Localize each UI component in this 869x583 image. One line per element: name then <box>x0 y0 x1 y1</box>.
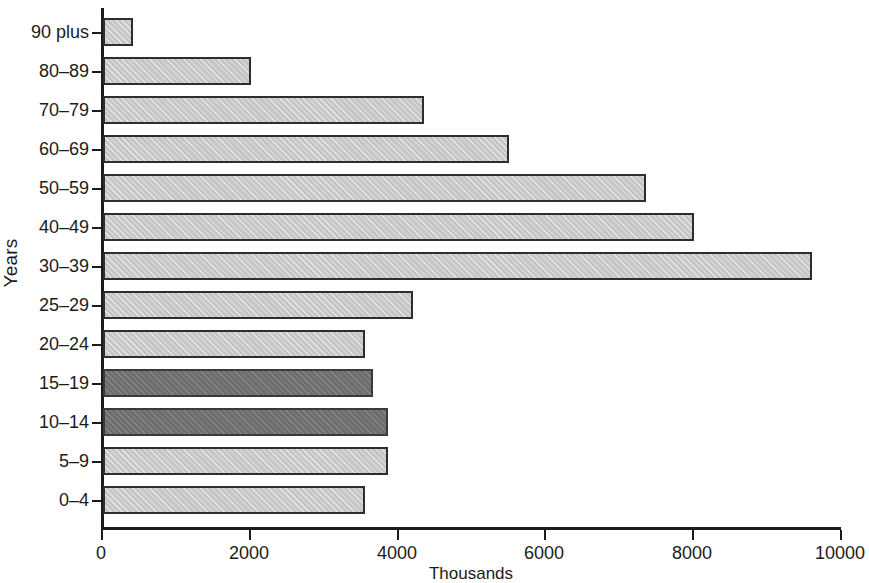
y-axis-tick <box>92 149 101 151</box>
x-axis-tick-label: 6000 <box>484 543 604 564</box>
y-axis-tick-label: 30–39 <box>0 257 89 275</box>
bar <box>103 291 413 319</box>
bar <box>103 252 812 280</box>
y-axis-tick-label: 20–24 <box>0 335 89 353</box>
y-axis-tick <box>92 383 101 385</box>
bar <box>103 447 388 475</box>
y-axis-tick-label: 90 plus <box>0 23 89 41</box>
y-axis-tick <box>92 188 101 190</box>
y-axis-tick-label: 15–19 <box>0 374 89 392</box>
y-axis-tick <box>92 500 101 502</box>
y-axis-tick <box>92 266 101 268</box>
x-axis-tick <box>544 530 546 540</box>
x-axis-tick <box>840 530 842 540</box>
y-axis-tick-label: 40–49 <box>0 218 89 236</box>
bar <box>103 96 424 124</box>
y-axis-tick <box>92 461 101 463</box>
plot-area: 90 plus80–8970–7960–6950–5940–4930–3925–… <box>101 8 841 528</box>
x-axis-tick <box>692 530 694 540</box>
x-axis-tick <box>397 530 399 540</box>
bar <box>103 57 251 85</box>
x-axis-tick-label: 8000 <box>632 543 752 564</box>
x-axis-tick-label: 2000 <box>189 543 309 564</box>
bar <box>103 486 365 514</box>
x-axis-tick-label: 10000 <box>780 543 869 564</box>
y-axis-tick <box>92 32 101 34</box>
y-axis-tick <box>92 305 101 307</box>
bar <box>103 408 388 436</box>
x-axis-tick <box>101 530 103 540</box>
y-axis-tick-label: 10–14 <box>0 413 89 431</box>
bar <box>103 135 509 163</box>
bar <box>103 213 694 241</box>
x-axis-tick <box>249 530 251 540</box>
y-axis-tick-label: 5–9 <box>0 452 89 470</box>
bar <box>103 174 646 202</box>
y-axis-tick <box>92 110 101 112</box>
y-axis-tick-label: 0–4 <box>0 491 89 509</box>
x-axis-tick-label: 0 <box>41 543 161 564</box>
y-axis-tick-label: 50–59 <box>0 179 89 197</box>
x-axis-line <box>101 527 841 530</box>
y-axis-tick-label: 70–79 <box>0 101 89 119</box>
bar <box>103 18 133 46</box>
y-axis-tick-label: 60–69 <box>0 140 89 158</box>
bar <box>103 369 373 397</box>
y-axis-tick <box>92 344 101 346</box>
x-axis-title: Thousands <box>101 564 841 583</box>
y-axis-tick <box>92 227 101 229</box>
x-axis-tick-label: 4000 <box>337 543 457 564</box>
bar <box>103 330 365 358</box>
y-axis-tick <box>92 422 101 424</box>
y-axis-tick-label: 80–89 <box>0 62 89 80</box>
y-axis-tick <box>92 71 101 73</box>
y-axis-tick-label: 25–29 <box>0 296 89 314</box>
